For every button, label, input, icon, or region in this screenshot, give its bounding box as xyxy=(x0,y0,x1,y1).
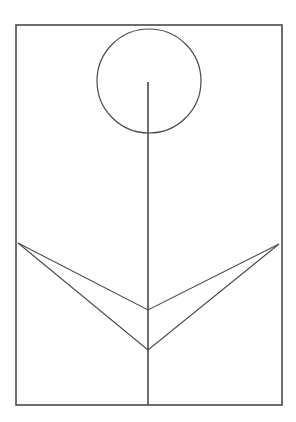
flower-head-circle xyxy=(97,29,201,133)
frame-rectangle xyxy=(16,25,282,405)
flower-drawing xyxy=(0,0,296,422)
